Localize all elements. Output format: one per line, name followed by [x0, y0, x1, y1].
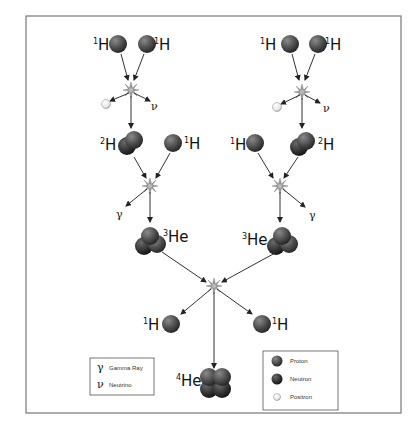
legend-label-neutrino: Neutrino: [109, 382, 132, 388]
legend-symbols: γ Gamma Ray ν Neutrino: [90, 358, 154, 395]
proton-icon: [272, 356, 283, 367]
proton-sphere: [162, 315, 180, 333]
neutrino-symbol: ν: [151, 100, 158, 113]
positron-sphere: [102, 100, 111, 109]
neutrino-symbol: ν: [97, 378, 104, 391]
proton-sphere: [281, 35, 299, 53]
reaction-star-icon: [123, 82, 139, 98]
positron-sphere: [273, 103, 282, 112]
proton-sphere: [164, 134, 182, 152]
gamma-symbol: γ: [309, 209, 316, 222]
legend-label-proton: Proton: [290, 358, 308, 364]
positron-icon: [274, 394, 281, 401]
proton-sphere: [253, 315, 271, 333]
neutrino-symbol: ν: [323, 102, 330, 115]
gamma-symbol: γ: [116, 208, 123, 221]
gamma-symbol: γ: [97, 361, 104, 374]
neutron-icon: [272, 374, 283, 385]
pp-chain-diagram: 1H 1H ν 1H 1H ν 2H 1H: [0, 0, 408, 423]
legend-label-gamma: Gamma Ray: [109, 365, 143, 371]
proton-sphere: [109, 35, 127, 53]
legend-label-positron: Positron: [290, 394, 312, 400]
reaction-star-icon: [294, 84, 310, 100]
legend-label-neutron: Neutron: [290, 376, 311, 382]
proton-sphere: [246, 134, 264, 152]
legend-particles: Proton Neutron Positron: [263, 351, 338, 410]
